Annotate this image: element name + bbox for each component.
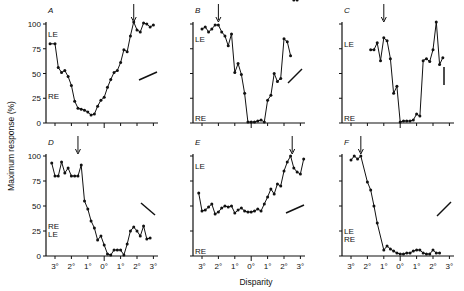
- x-tick-label: 2°: [215, 262, 223, 271]
- data-point: [266, 99, 269, 102]
- data-point: [214, 23, 217, 26]
- data-point: [438, 63, 441, 66]
- x-tick-label: 3°: [150, 262, 158, 271]
- data-point: [57, 66, 60, 69]
- data-point: [145, 238, 148, 241]
- x-tick-label: 2°: [364, 262, 372, 271]
- data-point: [149, 237, 152, 240]
- data-point: [67, 167, 70, 170]
- data-point: [422, 59, 425, 62]
- data-point: [122, 48, 125, 51]
- data-point: [389, 248, 392, 251]
- y-tick-label: 100: [28, 152, 42, 161]
- data-point: [63, 172, 66, 175]
- panel-title: B: [195, 6, 201, 15]
- y-tick-label: 25: [32, 94, 41, 103]
- y-tick-label: 75: [32, 177, 41, 186]
- x-tick-label: 3°: [297, 262, 305, 271]
- data-point: [428, 253, 431, 256]
- data-point: [73, 175, 76, 178]
- data-point: [296, 171, 299, 174]
- orientation-bar-icon: [437, 202, 451, 216]
- panel-f: 3°2°1°0°1°2°3°FLERE: [339, 136, 454, 271]
- panel-title: C: [344, 6, 350, 15]
- data-point: [49, 42, 52, 45]
- response-curve: [52, 162, 150, 255]
- data-point: [73, 100, 76, 103]
- panel-d: 02550751003°2°1°0°1°2°3°DLERE: [28, 136, 158, 271]
- data-point: [93, 113, 96, 116]
- y-tick-label: 100: [28, 20, 42, 29]
- data-point: [119, 249, 122, 252]
- response-curve: [202, 25, 291, 122]
- data-point: [415, 249, 418, 252]
- data-point: [273, 72, 276, 75]
- le-label: LE: [195, 162, 205, 171]
- data-point: [54, 42, 57, 45]
- data-point: [382, 36, 385, 39]
- data-point: [263, 203, 266, 206]
- data-point: [266, 196, 269, 199]
- data-point: [441, 56, 444, 59]
- data-point: [70, 84, 73, 87]
- data-point: [227, 44, 230, 47]
- data-point: [142, 225, 145, 228]
- panel-title: D: [48, 138, 54, 147]
- data-point: [279, 185, 282, 188]
- data-point: [386, 245, 389, 248]
- data-point: [76, 107, 79, 110]
- data-point: [86, 111, 89, 114]
- x-tick-label: 2°: [280, 262, 288, 271]
- data-point: [103, 96, 106, 99]
- data-point: [126, 243, 129, 246]
- y-tick-label: 0: [37, 119, 42, 128]
- le-label: LE: [48, 230, 58, 239]
- data-point: [372, 205, 375, 208]
- data-point: [80, 164, 83, 167]
- le-label: LE: [344, 40, 354, 49]
- data-point: [139, 30, 142, 33]
- data-point: [286, 161, 289, 164]
- data-point: [382, 249, 385, 252]
- data-point: [122, 254, 125, 257]
- x-tick-label: 1°: [117, 262, 125, 271]
- re-label: RE: [48, 222, 59, 231]
- data-point: [197, 192, 200, 195]
- data-point: [409, 120, 412, 123]
- orientation-bar-icon: [286, 205, 304, 213]
- data-point: [253, 121, 256, 124]
- y-tick-label: 75: [32, 45, 41, 54]
- data-point: [296, 0, 299, 2]
- data-point: [93, 227, 96, 230]
- data-point: [201, 210, 204, 213]
- le-label: LE: [195, 35, 205, 44]
- data-point: [302, 158, 305, 161]
- x-tick-label: 1°: [413, 262, 421, 271]
- data-point: [240, 73, 243, 76]
- data-point: [392, 92, 395, 95]
- data-point: [109, 254, 112, 257]
- data-point: [233, 212, 236, 215]
- data-point: [214, 213, 217, 216]
- data-point: [83, 200, 86, 203]
- data-point: [210, 27, 213, 30]
- data-point: [142, 22, 145, 25]
- data-point: [246, 211, 249, 214]
- data-point: [90, 220, 93, 223]
- data-point: [139, 235, 142, 238]
- data-point: [425, 57, 428, 60]
- data-point: [223, 34, 226, 37]
- orientation-bar-icon: [141, 203, 155, 215]
- data-point: [217, 211, 220, 214]
- data-point: [233, 71, 236, 74]
- panel-a: 0255075100ALERE: [28, 4, 158, 128]
- data-point: [418, 115, 421, 118]
- data-point: [276, 80, 279, 83]
- data-point: [220, 30, 223, 33]
- data-point: [90, 114, 93, 117]
- data-point: [389, 57, 392, 60]
- data-point: [409, 252, 412, 255]
- data-point: [402, 120, 405, 123]
- data-point: [438, 252, 441, 255]
- data-point: [405, 252, 408, 255]
